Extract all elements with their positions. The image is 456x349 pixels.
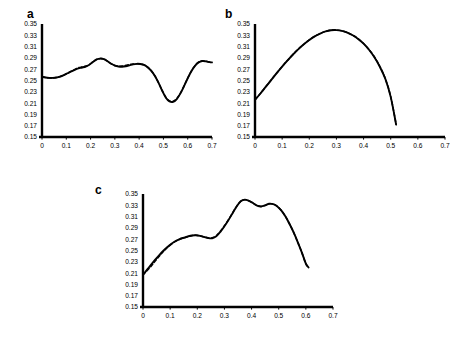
y-tick-label: 0.17 [237, 122, 250, 129]
y-tick-label: 0.17 [24, 122, 37, 129]
x-tick-label: 0.7 [440, 142, 449, 149]
y-tick-label: 0.25 [24, 77, 37, 84]
y-tick-label: 0.23 [237, 88, 250, 95]
x-tick-label: 0.6 [413, 142, 422, 149]
y-tick-label: 0.27 [237, 66, 250, 73]
panel-b: b 0.150.170.190.210.230.250.270.290.310.… [222, 6, 450, 166]
panel-c: c 0.150.170.190.210.230.250.270.290.310.… [95, 180, 360, 345]
series-line-solid [42, 59, 212, 103]
y-tick-label: 0.29 [237, 54, 250, 61]
x-tick-label: 0.5 [274, 312, 283, 319]
x-tick-label: 0.7 [207, 142, 216, 149]
x-tick-label: 0.5 [386, 142, 395, 149]
y-tick-label: 0.29 [24, 54, 37, 61]
x-tick-label: 0.3 [110, 142, 119, 149]
series-line-solid [143, 200, 309, 275]
y-tick-label: 0.23 [125, 258, 138, 265]
y-tick-label: 0.15 [237, 133, 250, 140]
y-tick-label: 0.35 [237, 20, 250, 27]
y-tick-label: 0.21 [237, 100, 250, 107]
y-tick-label: 0.33 [24, 32, 37, 39]
y-tick-label: 0.19 [24, 111, 37, 118]
y-tick-label: 0.27 [24, 66, 37, 73]
y-tick-label: 0.25 [237, 77, 250, 84]
x-tick-label: 0 [253, 142, 257, 149]
x-tick-label: 0.4 [359, 142, 368, 149]
x-tick-label: 0.6 [301, 312, 310, 319]
x-tick-label: 0.1 [278, 142, 287, 149]
y-tick-label: 0.33 [237, 32, 250, 39]
y-tick-label: 0.15 [125, 303, 138, 310]
x-tick-label: 0.2 [305, 142, 314, 149]
x-tick-label: 0.2 [193, 312, 202, 319]
x-tick-label: 0.7 [328, 312, 337, 319]
y-tick-label: 0.17 [125, 292, 138, 299]
x-tick-label: 0.1 [62, 142, 71, 149]
y-tick-label: 0.19 [237, 111, 250, 118]
x-tick-label: 0.4 [247, 312, 256, 319]
y-tick-label: 0.19 [125, 281, 138, 288]
plot-b: 0.150.170.190.210.230.250.270.290.310.33… [222, 6, 450, 166]
y-tick-label: 0.15 [24, 133, 37, 140]
y-tick-label: 0.25 [125, 247, 138, 254]
x-tick-label: 0.1 [166, 312, 175, 319]
x-tick-label: 0.5 [159, 142, 168, 149]
figure-container: a 0.150.170.190.210.230.250.270.290.310.… [0, 0, 456, 349]
y-tick-label: 0.29 [125, 224, 138, 231]
y-tick-label: 0.21 [125, 270, 138, 277]
y-tick-label: 0.35 [125, 190, 138, 197]
x-tick-label: 0.3 [332, 142, 341, 149]
x-tick-label: 0.4 [135, 142, 144, 149]
x-tick-label: 0.2 [86, 142, 95, 149]
series-line-dashed [143, 200, 309, 275]
x-tick-label: 0 [141, 312, 145, 319]
y-tick-label: 0.31 [24, 43, 37, 50]
y-tick-label: 0.27 [125, 236, 138, 243]
y-tick-label: 0.35 [24, 20, 37, 27]
y-tick-label: 0.23 [24, 88, 37, 95]
panel-a: a 0.150.170.190.210.230.250.270.290.310.… [12, 6, 217, 166]
series-line-solid [255, 30, 396, 125]
y-tick-label: 0.33 [125, 202, 138, 209]
x-tick-label: 0.6 [183, 142, 192, 149]
x-tick-label: 0.3 [220, 312, 229, 319]
y-tick-label: 0.21 [24, 100, 37, 107]
plot-a: 0.150.170.190.210.230.250.270.290.310.33… [12, 6, 217, 166]
plot-c: 0.150.170.190.210.230.250.270.290.310.33… [95, 180, 360, 345]
series-line-dashed [255, 30, 396, 125]
y-tick-label: 0.31 [237, 43, 250, 50]
y-tick-label: 0.31 [125, 213, 138, 220]
x-tick-label: 0 [40, 142, 44, 149]
